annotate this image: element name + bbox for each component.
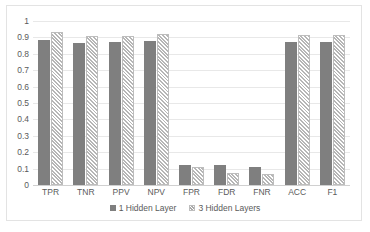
y-axis-tick-label: 0.7 <box>17 66 29 75</box>
bar-group <box>249 21 274 185</box>
y-axis-tick-label: 0.4 <box>17 115 29 124</box>
bar[interactable] <box>122 36 134 185</box>
bar-group <box>38 21 63 185</box>
bar[interactable] <box>320 42 332 185</box>
bar-group <box>285 21 310 185</box>
bar[interactable] <box>262 174 274 185</box>
x-axis-tick-label: FNR <box>253 188 270 197</box>
bar[interactable] <box>144 41 156 185</box>
bar[interactable] <box>38 40 50 185</box>
bar-group <box>320 21 345 185</box>
x-axis-tick-label: FDR <box>218 188 235 197</box>
bar[interactable] <box>86 36 98 185</box>
legend-item-series-2[interactable]: 3 Hidden Layers <box>189 204 260 213</box>
x-axis-tick-label: FPR <box>183 188 200 197</box>
legend-item-series-1[interactable]: 1 Hidden Layer <box>110 204 177 213</box>
bar[interactable] <box>298 35 310 185</box>
bar[interactable] <box>157 34 169 185</box>
bar[interactable] <box>73 43 85 185</box>
y-axis-tick-label: 0.3 <box>17 132 29 141</box>
bar[interactable] <box>285 42 297 185</box>
bar-group <box>214 21 239 185</box>
bar-group <box>144 21 169 185</box>
chart-legend: 1 Hidden Layer 3 Hidden Layers <box>7 204 363 213</box>
bar-group <box>73 21 98 185</box>
x-axis-tick-label: PPV <box>113 188 130 197</box>
chart-container: 00.10.20.30.40.50.60.70.80.91 TPRTNRPPVN… <box>6 5 362 221</box>
y-axis-tick-label: 0.8 <box>17 50 29 59</box>
y-axis-tick-label: 1 <box>24 17 29 26</box>
legend-swatch-icon-series-1 <box>110 205 116 211</box>
y-axis-tick-label: 0.1 <box>17 164 29 173</box>
bar[interactable] <box>333 35 345 185</box>
x-axis-tick-label: ACC <box>288 188 306 197</box>
bar[interactable] <box>249 167 261 185</box>
bar-series-layer <box>33 21 350 185</box>
plot-area: 00.10.20.30.40.50.60.70.80.91 <box>33 21 350 185</box>
x-axis-tick-label: TPR <box>42 188 59 197</box>
x-axis-tick-labels: TPRTNRPPVNPVFPRFDRFNRACCF1 <box>33 188 350 202</box>
legend-swatch-icon-series-2 <box>189 205 195 211</box>
gridline <box>33 185 350 186</box>
bar[interactable] <box>227 173 239 185</box>
x-axis-tick-label: TNR <box>77 188 94 197</box>
y-axis-tick-label: 0.6 <box>17 82 29 91</box>
y-axis-tick-label: 0.2 <box>17 148 29 157</box>
bar[interactable] <box>51 32 63 185</box>
bar-group <box>109 21 134 185</box>
bar[interactable] <box>109 42 121 185</box>
bar[interactable] <box>192 167 204 185</box>
legend-label-series-1: 1 Hidden Layer <box>119 204 177 213</box>
x-axis-tick-label: F1 <box>327 188 337 197</box>
x-axis-tick-label: NPV <box>148 188 165 197</box>
y-axis-tick-label: 0 <box>24 181 29 190</box>
y-axis-tick-label: 0.5 <box>17 99 29 108</box>
legend-label-series-2: 3 Hidden Layers <box>198 204 260 213</box>
bar-group <box>179 21 204 185</box>
y-axis-tick-label: 0.9 <box>17 33 29 42</box>
bar[interactable] <box>179 165 191 186</box>
bar[interactable] <box>214 165 226 185</box>
